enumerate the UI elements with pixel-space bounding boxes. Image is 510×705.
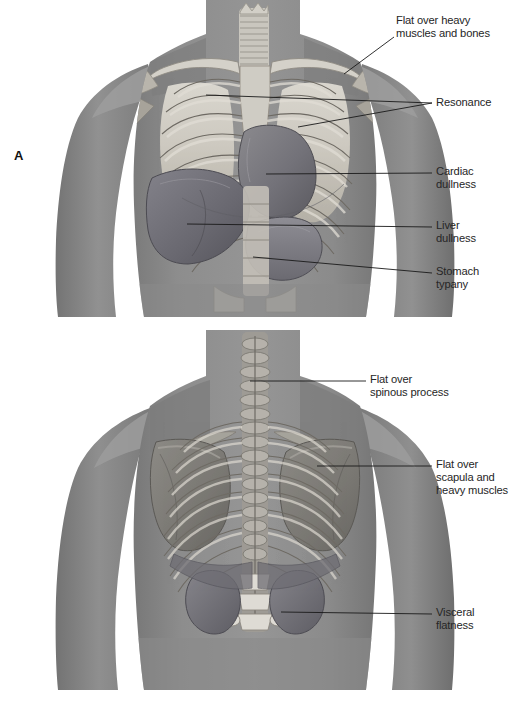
trachea (239, 8, 269, 70)
callout-flat-over-spinous-process: Flat over spinous process (370, 373, 494, 399)
lower-back-overlay (134, 638, 376, 694)
callout-liver-dullness: Liver dullness (436, 219, 510, 245)
callout-flat-over-heavy-muscles-and-bones: Flat over heavy muscles and bones (396, 14, 508, 40)
callout-resonance: Resonance (436, 96, 510, 109)
abdomen-overlay (134, 284, 376, 324)
lumbar-spine-anterior (243, 186, 269, 296)
callout-cardiac-dullness: Cardiac dullness (436, 165, 510, 191)
anterior-thorax-illustration (0, 0, 510, 330)
callout-flat-over-scapula-and-heavy-muscles: Flat over scapula and heavy muscles (436, 458, 510, 498)
panel-a-anterior: A Flat over heavy muscles and bones Reso… (0, 0, 510, 330)
callout-stomach-typany: Stomach typany (436, 265, 510, 291)
posterior-anatomy (134, 332, 376, 694)
callout-visceral-flatness: Visceral flatness (436, 606, 510, 632)
panel-b-posterior: B Flat over spinous process Flat over sc… (0, 330, 510, 705)
panel-letter-a: A (14, 148, 24, 163)
figure-root: A Flat over heavy muscles and bones Reso… (0, 0, 510, 705)
